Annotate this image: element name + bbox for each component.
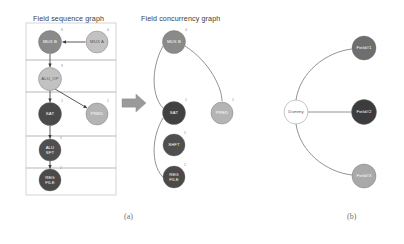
- node-field1: Field#1: [352, 36, 376, 60]
- node-alu-op: ALU_OP9: [39, 64, 64, 91]
- node-label-field3: Field#3: [357, 173, 372, 178]
- node-label-alu-sft: SFT: [46, 150, 55, 155]
- concurrency-nodes: MUX B4SAT1PRED1SHFT5REGFILE2: [163, 28, 235, 188]
- sequence-nodes: MUX B6MUX A4ALU_OP9SAT1PRED1ALUSFT5REGFI…: [39, 28, 110, 191]
- node-c-shft: SHFT5: [163, 131, 186, 156]
- node-superscript-alu-op: 9: [61, 64, 63, 68]
- node-label-sat: SAT: [46, 111, 55, 116]
- transform-arrow-layer: [122, 94, 146, 112]
- node-label-c-sat: SAT: [170, 110, 179, 115]
- node-superscript-c-pred: 1: [232, 98, 234, 102]
- node-dummy: Dummy: [284, 100, 308, 124]
- node-label-mux-b: MUX B: [43, 39, 57, 44]
- node-mux-b: MUX B6: [39, 28, 64, 54]
- node-superscript-c-shft: 5: [184, 131, 186, 135]
- edge-dummy-to-field3: [296, 124, 352, 175]
- node-field2: Field#2: [352, 100, 377, 125]
- node-label-field1: Field#1: [357, 45, 372, 50]
- node-label-dummy: Dummy: [288, 109, 304, 114]
- node-alu-sft: ALUSFT5: [39, 136, 62, 161]
- node-label-alu-op: ALU_OP: [41, 76, 59, 81]
- edge-dummy-to-field1: [296, 49, 352, 100]
- node-label-pred: PRED: [91, 111, 103, 116]
- node-c-mux-b: MUX B4: [163, 28, 188, 54]
- node-superscript-sat: 1: [61, 99, 63, 103]
- node-superscript-c-mux-b: 4: [185, 28, 187, 32]
- node-sat: SAT1: [39, 99, 64, 126]
- node-superscript-mux-a: 4: [107, 28, 109, 32]
- node-label-c-shft: SHFT: [168, 142, 180, 147]
- node-mux-a: MUX A4: [86, 28, 109, 53]
- node-reg-file: REGFILE2: [39, 166, 62, 191]
- node-c-pred: PRED1: [211, 98, 234, 124]
- node-superscript-alu-sft: 5: [60, 136, 62, 140]
- figure-container: Field sequence graph Field concurrency g…: [0, 0, 404, 244]
- node-superscript-reg-file: 2: [60, 166, 62, 170]
- node-field3: Field#3: [352, 164, 376, 188]
- node-superscript-c-sat: 1: [185, 98, 187, 102]
- node-pred: PRED1: [86, 99, 109, 125]
- edge-c-mux-b-to-c-pred: [185, 46, 222, 101]
- figure-canvas: MUX B6MUX A4ALU_OP9SAT1PRED1ALUSFT5REGFI…: [0, 0, 404, 244]
- node-c-sat: SAT1: [163, 98, 188, 125]
- node-superscript-c-reg-file: 2: [184, 163, 186, 167]
- node-c-reg-file: REGFILE2: [163, 163, 186, 188]
- node-superscript-mux-b: 6: [61, 28, 63, 32]
- node-label-c-mux-b: MUX B: [167, 39, 181, 44]
- edge-c-mux-b-to-c-sat: [154, 46, 164, 109]
- edge-c-sat-to-c-reg-file: [154, 118, 164, 178]
- node-label-c-reg-file: FILE: [169, 177, 179, 182]
- node-label-reg-file: FILE: [45, 180, 55, 185]
- node-label-mux-a: MUX A: [90, 39, 104, 44]
- transform-arrow: [122, 94, 146, 112]
- node-label-c-pred: PRED: [216, 110, 228, 115]
- node-label-field2: Field#2: [357, 109, 372, 114]
- node-superscript-pred: 1: [107, 99, 109, 103]
